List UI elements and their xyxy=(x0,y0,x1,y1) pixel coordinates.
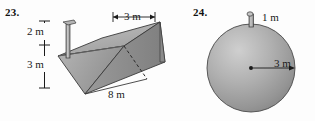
sphere-spout-cap xyxy=(247,12,253,16)
figure-24-spout-height-label: 1 m xyxy=(262,11,279,23)
sphere-center-dot xyxy=(249,66,253,70)
figure-24-radius-label: 3 m xyxy=(274,57,291,69)
figure-page: 23. xyxy=(0,0,315,121)
